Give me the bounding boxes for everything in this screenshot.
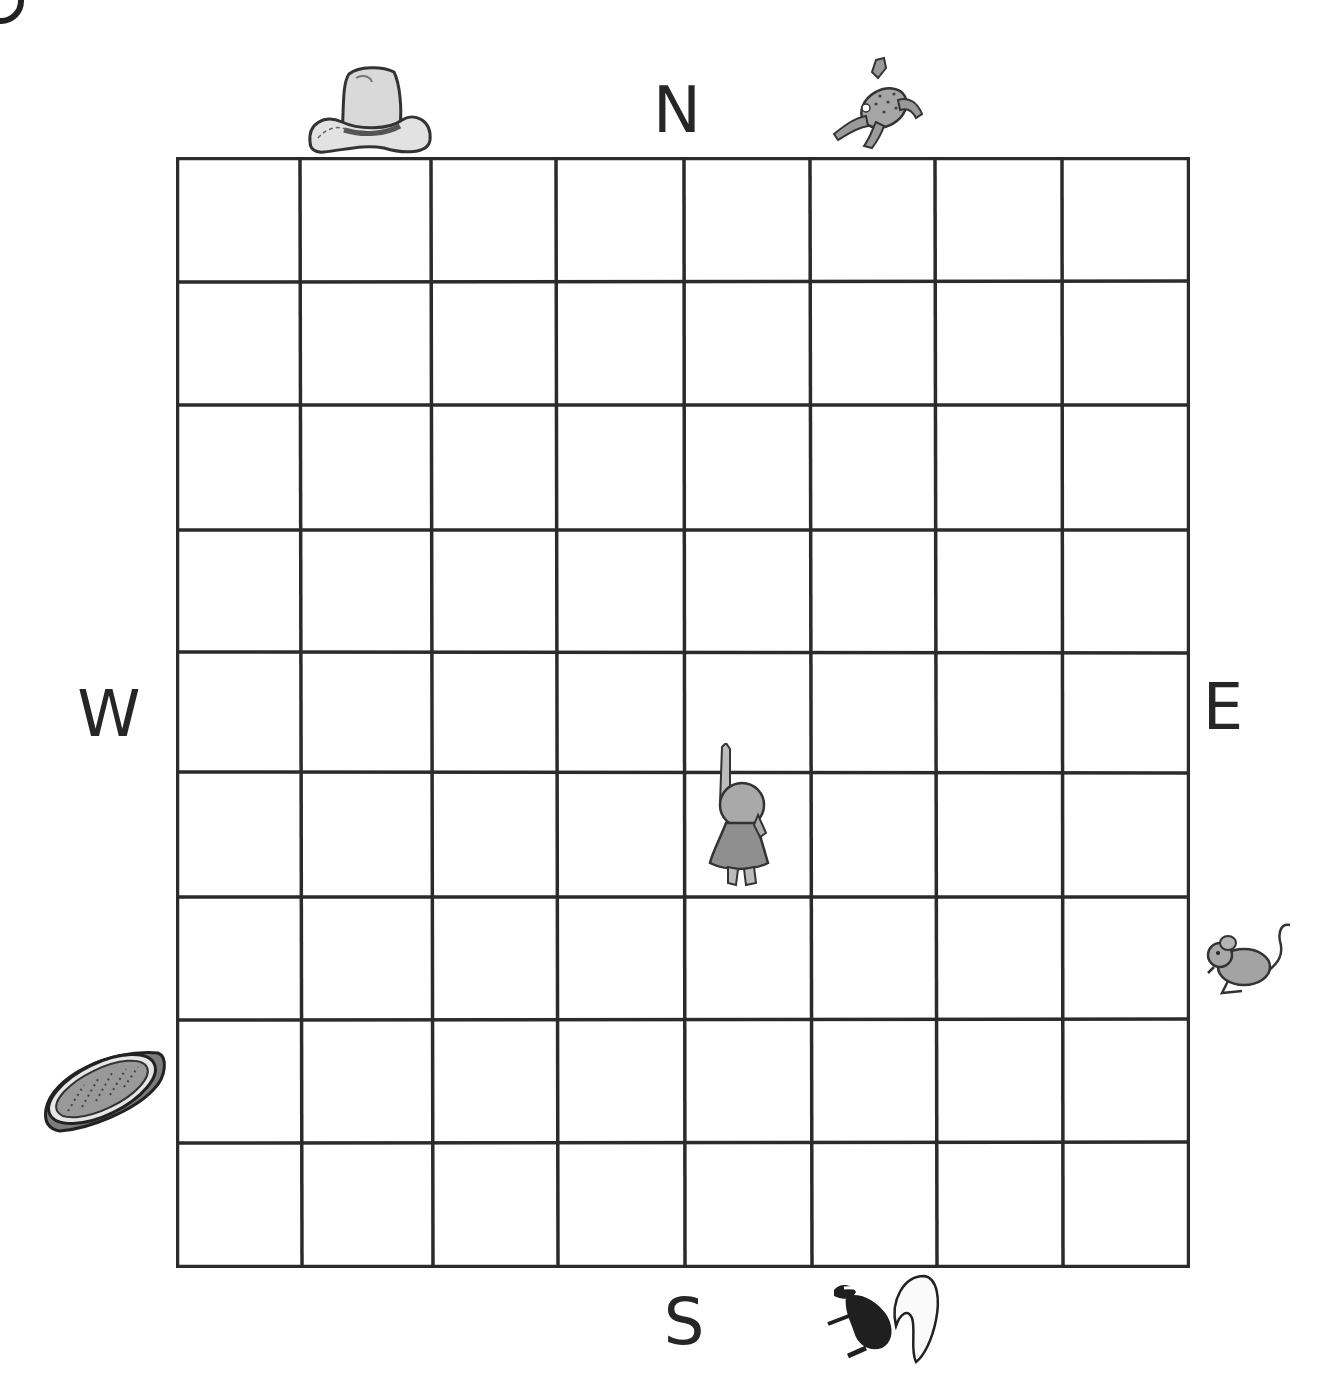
basket-icon bbox=[38, 1037, 170, 1137]
grid-lines bbox=[176, 157, 1190, 1268]
south-label: S bbox=[644, 1290, 724, 1354]
frog-icon bbox=[826, 56, 926, 152]
east-label: E bbox=[1183, 675, 1263, 739]
west-label: W bbox=[69, 682, 149, 746]
map-grid bbox=[176, 157, 1190, 1268]
skunk-icon bbox=[820, 1270, 944, 1370]
mouse-icon bbox=[1198, 915, 1294, 997]
corner-mark bbox=[0, 0, 24, 24]
girl-pointing-north-icon bbox=[706, 743, 776, 893]
north-label: N bbox=[637, 78, 717, 142]
cowboy-hat-icon bbox=[304, 64, 434, 156]
